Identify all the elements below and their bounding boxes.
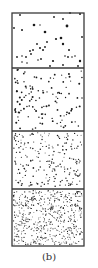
panel-3 xyxy=(13,132,82,187)
panel-1 xyxy=(13,12,83,67)
figure-caption: (b) xyxy=(0,251,98,263)
panel-4 xyxy=(13,190,83,245)
figure: (b) xyxy=(0,0,98,268)
point-distribution-plot xyxy=(0,0,98,268)
dots-layer xyxy=(13,12,83,245)
panel-dividers xyxy=(12,68,84,189)
panel-2 xyxy=(14,69,83,130)
outer-frame xyxy=(12,13,84,246)
